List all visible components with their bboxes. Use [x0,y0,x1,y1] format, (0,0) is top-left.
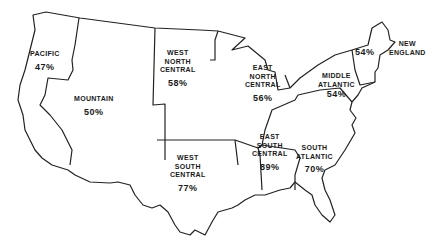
region-percent-new-england: 54% [355,48,375,57]
region-label-mountain: MOUNTAIN 50% [74,95,114,116]
region-percent: 54% [355,48,375,57]
region-percent: 89% [252,163,288,172]
region-name-line: CENTRAL [160,66,196,73]
region-name: MOUNTAIN [74,95,114,102]
region-percent: 58% [160,79,196,88]
region-name-line: ENGLAND [389,49,426,56]
region-name-line: EAST [260,133,280,140]
region-name-line: EAST [253,64,273,71]
region-name-line: CENTRAL [252,150,288,157]
region-name-line: CENTRAL [245,81,281,88]
region-name-line: NORTH [250,73,276,80]
region-percent: 54% [318,90,355,99]
region-percent: 47% [30,63,60,72]
region-percent: 56% [245,94,281,103]
region-label-middle-atlantic: MIDDLE ATLANTIC 54% [318,72,355,99]
region-percent: 50% [74,108,114,117]
region-name-line: SOUTH [175,163,201,170]
region-name: PACIFIC [30,50,60,57]
region-name-line: SOUTH [301,144,327,151]
region-name-line: CENTRAL [170,171,206,178]
region-percent: 77% [170,184,206,193]
region-label-west-south-central: WEST SOUTH CENTRAL 77% [170,154,206,192]
region-label-east-south-central: EAST SOUTH CENTRAL 89% [252,133,288,171]
region-name-line: NEW [399,40,416,47]
region-name-line: WEST [167,49,188,56]
region-label-west-north-central: WEST NORTH CENTRAL 58% [160,49,196,87]
region-name-line: ATLANTIC [318,81,355,88]
region-label-east-north-central: EAST NORTH CENTRAL 56% [245,64,281,102]
region-name-line: WEST [177,154,198,161]
region-name-line: SOUTH [257,142,283,149]
us-census-regions-map [0,0,438,250]
region-label-south-atlantic: SOUTH ATLANTIC 70% [296,144,333,174]
region-name-line: MIDDLE [322,72,351,79]
region-name-line: ATLANTIC [296,153,333,160]
region-label-new-england: NEW ENGLAND [389,40,426,57]
region-name-line: NORTH [165,58,191,65]
region-label-pacific: PACIFIC 47% [30,50,60,71]
region-percent: 70% [296,165,333,174]
